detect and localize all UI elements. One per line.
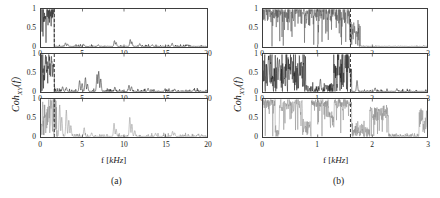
x-tick-a-bot-10: 10	[113, 141, 135, 149]
plot-canvas-b-bot	[263, 99, 427, 137]
y-tick-a-mid-1: 1	[14, 50, 36, 58]
plot-canvas-a-bot	[41, 99, 207, 137]
plot-panel-b-bottom	[262, 98, 428, 138]
y-tick-a-bot-0: 0	[14, 133, 36, 141]
y-tick-a-top-05: 0.5	[14, 24, 36, 32]
plot-canvas-a-mid	[41, 54, 207, 92]
figure-panel-group-b: CohXY(f) 1 0.5 0 0 1 2 3 1 0.5 0 0 1 2 3…	[220, 0, 440, 198]
y-tick-a-mid-05: 0.5	[14, 69, 36, 77]
y-tick-b-top-05: 0.5	[236, 24, 258, 32]
trace-a-top	[41, 10, 207, 47]
x-axis-label-a-prefix: f [	[101, 155, 109, 165]
plot-panel-a-top	[40, 8, 208, 48]
plot-canvas-b-mid	[263, 54, 427, 92]
y-axis-label-b-tail: (f)	[232, 77, 243, 87]
subcaption-a: (a)	[111, 176, 122, 186]
x-axis-label-b: f [kHz]	[323, 155, 348, 165]
x-axis-label-b-unit: kHz	[331, 155, 345, 165]
y-tick-b-top-1: 1	[236, 5, 258, 13]
x-tick-a-bot-0: 0	[29, 141, 51, 149]
trace-a-mid	[41, 55, 207, 92]
x-tick-b-bot-0: 0	[251, 141, 273, 149]
plot-panel-a-mid	[40, 53, 208, 93]
figure-coherence-spectra: CohXY(f) 1 0.5 0 0 5 10 15 20 1 0.5 0 0 …	[0, 0, 440, 198]
x-tick-a-bot-20: 20	[197, 141, 219, 149]
subcaption-b: (b)	[333, 176, 344, 186]
y-axis-label-a-tail: (f)	[10, 77, 21, 87]
x-axis-label-a-suffix: ]	[123, 155, 126, 165]
y-tick-b-mid-05: 0.5	[236, 69, 258, 77]
x-tick-a-bot-5: 5	[71, 141, 93, 149]
y-tick-a-top-1: 1	[14, 5, 36, 13]
plot-panel-b-top	[262, 8, 428, 48]
plot-canvas-a-top	[41, 9, 207, 47]
trace-b-mid	[263, 55, 427, 92]
figure-panel-group-a: CohXY(f) 1 0.5 0 0 5 10 15 20 1 0.5 0 0 …	[0, 0, 220, 198]
x-tick-b-bot-3: 3	[417, 141, 439, 149]
x-tick-a-bot-15: 15	[155, 141, 177, 149]
trace-a-bot	[41, 100, 207, 137]
y-tick-b-bot-1: 1	[236, 95, 258, 103]
y-tick-b-bot-05: 0.5	[236, 114, 258, 122]
plot-panel-b-mid	[262, 53, 428, 93]
trace-b-bot	[263, 100, 427, 137]
x-axis-label-b-prefix: f [	[323, 155, 331, 165]
y-tick-a-bot-1: 1	[14, 95, 36, 103]
y-tick-a-bot-05: 0.5	[14, 114, 36, 122]
y-tick-b-bot-0: 0	[236, 133, 258, 141]
trace-b-top	[263, 10, 427, 47]
y-tick-b-mid-1: 1	[236, 50, 258, 58]
plot-canvas-b-top	[263, 9, 427, 47]
x-axis-label-a-unit: kHz	[109, 155, 123, 165]
x-tick-b-bot-2: 2	[361, 141, 383, 149]
x-axis-label-a: f [kHz]	[101, 155, 126, 165]
plot-panel-a-bottom	[40, 98, 208, 138]
x-axis-label-b-suffix: ]	[345, 155, 348, 165]
x-tick-b-bot-1: 1	[306, 141, 328, 149]
